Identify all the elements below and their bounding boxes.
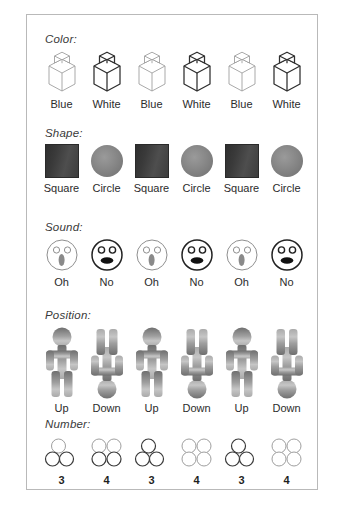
- square-icon: [135, 142, 169, 180]
- item-caption: Up: [234, 402, 248, 414]
- item-position-0: Up: [39, 324, 84, 414]
- item-caption: 4: [283, 474, 289, 486]
- item-caption: White: [92, 98, 120, 110]
- figure-down-icon: [267, 324, 307, 400]
- item-number-3: 4: [174, 433, 219, 486]
- square-icon: [225, 142, 259, 180]
- section-color: Color: Blue: [27, 33, 319, 110]
- item-position-1: Down: [84, 324, 129, 414]
- figure-frame: Color: Blue: [26, 14, 318, 490]
- item-caption: Blue: [50, 98, 72, 110]
- cube-icon: [225, 48, 259, 96]
- face-oh-icon: [44, 236, 80, 274]
- item-position-2: Up: [129, 324, 174, 414]
- item-color-0: Blue: [39, 48, 84, 110]
- cube-icon: [135, 48, 169, 96]
- item-caption: Up: [144, 402, 158, 414]
- item-sound-5: No: [264, 236, 309, 288]
- cube-icon: [90, 48, 124, 96]
- item-caption: Down: [182, 402, 210, 414]
- item-caption: 3: [148, 474, 154, 486]
- dots-three-icon: [224, 433, 260, 473]
- item-caption: 3: [58, 474, 64, 486]
- item-caption: Square: [44, 182, 79, 194]
- item-number-1: 4: [84, 433, 129, 486]
- item-position-5: Down: [264, 324, 309, 414]
- face-no-icon: [179, 236, 215, 274]
- item-sound-1: No: [84, 236, 129, 288]
- item-caption: 4: [193, 474, 199, 486]
- item-sound-4: Oh: [219, 236, 264, 288]
- circle-icon: [271, 142, 303, 180]
- figure-up-icon: [222, 324, 262, 400]
- item-shape-1: Circle: [84, 142, 129, 194]
- item-caption: Down: [92, 402, 120, 414]
- dots-four-icon: [89, 433, 125, 473]
- item-caption: 3: [238, 474, 244, 486]
- item-shape-4: Square: [219, 142, 264, 194]
- row-position: Up: [27, 324, 319, 414]
- face-oh-icon: [134, 236, 170, 274]
- figure-down-icon: [87, 324, 127, 400]
- item-caption: Oh: [54, 276, 69, 288]
- item-color-1: White: [84, 48, 129, 110]
- item-sound-0: Oh: [39, 236, 84, 288]
- cube-icon: [180, 48, 214, 96]
- section-label-number: Number:: [45, 418, 319, 430]
- cube-icon: [45, 48, 79, 96]
- item-shape-2: Square: [129, 142, 174, 194]
- circle-icon: [181, 142, 213, 180]
- row-sound: Oh No: [27, 236, 319, 288]
- item-caption: No: [279, 276, 293, 288]
- item-caption: Blue: [140, 98, 162, 110]
- section-number: Number: 3: [27, 418, 319, 486]
- item-position-3: Down: [174, 324, 219, 414]
- circle-icon: [91, 142, 123, 180]
- item-position-4: Up: [219, 324, 264, 414]
- item-caption: Circle: [182, 182, 210, 194]
- figure-up-icon: [42, 324, 82, 400]
- item-caption: No: [189, 276, 203, 288]
- item-color-2: Blue: [129, 48, 174, 110]
- item-number-5: 4: [264, 433, 309, 486]
- item-caption: Oh: [234, 276, 249, 288]
- face-oh-icon: [224, 236, 260, 274]
- face-no-icon: [269, 236, 305, 274]
- figure-down-icon: [177, 324, 217, 400]
- section-label-position: Position:: [45, 309, 319, 321]
- item-number-4: 3: [219, 433, 264, 486]
- item-number-2: 3: [129, 433, 174, 486]
- dots-three-icon: [44, 433, 80, 473]
- cube-icon: [270, 48, 304, 96]
- dots-four-icon: [179, 433, 215, 473]
- item-color-4: Blue: [219, 48, 264, 110]
- item-color-3: White: [174, 48, 219, 110]
- dots-three-icon: [134, 433, 170, 473]
- item-caption: 4: [103, 474, 109, 486]
- section-position: Position:: [27, 309, 319, 414]
- item-caption: Down: [272, 402, 300, 414]
- item-caption: Circle: [272, 182, 300, 194]
- row-color: Blue White: [27, 48, 319, 110]
- item-shape-5: Circle: [264, 142, 309, 194]
- row-number: 3 4: [27, 433, 319, 486]
- item-caption: White: [272, 98, 300, 110]
- item-sound-2: Oh: [129, 236, 174, 288]
- section-sound: Sound: Oh: [27, 221, 319, 288]
- row-shape: Square Circle Square Circle Square Circl…: [27, 142, 319, 194]
- face-no-icon: [89, 236, 125, 274]
- item-caption: White: [182, 98, 210, 110]
- item-caption: Square: [134, 182, 169, 194]
- dots-four-icon: [269, 433, 305, 473]
- item-caption: Square: [224, 182, 259, 194]
- item-caption: Up: [54, 402, 68, 414]
- item-caption: Circle: [92, 182, 120, 194]
- item-caption: Blue: [230, 98, 252, 110]
- section-label-sound: Sound:: [45, 221, 319, 233]
- section-label-color: Color:: [45, 33, 319, 45]
- square-icon: [45, 142, 79, 180]
- item-sound-3: No: [174, 236, 219, 288]
- item-number-0: 3: [39, 433, 84, 486]
- item-caption: Oh: [144, 276, 159, 288]
- figure-up-icon: [132, 324, 172, 400]
